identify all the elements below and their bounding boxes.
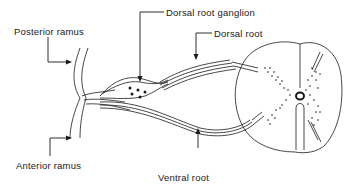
label-anterior-ramus: Anterior ramus bbox=[16, 160, 81, 171]
label-dorsal-root-ganglion: Dorsal root ganglion bbox=[166, 7, 255, 18]
label-ventral-root: Ventral root bbox=[158, 172, 209, 183]
posterior-ramus-nerve bbox=[74, 48, 88, 98]
grey-matter-stipple bbox=[264, 67, 321, 126]
anterior-ramus-nerve bbox=[70, 98, 86, 138]
spinal-cord-cross-section bbox=[235, 42, 342, 153]
label-dorsal-root: Dorsal root bbox=[214, 28, 263, 39]
dorsal-root-nerve bbox=[160, 60, 236, 90]
arrowheads bbox=[66, 54, 201, 141]
label-posterior-ramus: Posterior ramus bbox=[14, 26, 84, 37]
ventral-root-nerve bbox=[100, 102, 254, 136]
dorsal-root-ganglion-shape bbox=[100, 78, 168, 99]
spinal-nerve-trunk bbox=[82, 90, 130, 110]
root-entry-fibers bbox=[232, 52, 323, 142]
